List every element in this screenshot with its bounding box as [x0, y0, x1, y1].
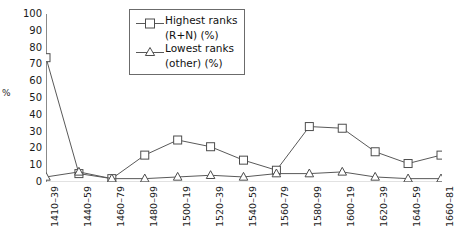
y-tick-label: 60 — [16, 76, 42, 86]
data-point-square-marker — [141, 151, 149, 159]
y-axis-ticks: 1009080706050403020100 — [14, 0, 42, 238]
data-point-square-marker — [371, 148, 379, 156]
legend-sublabel-highest-ranks: (R+N) (%) — [165, 29, 237, 42]
legend-label-lowest-ranks: Lowest ranks — [165, 42, 234, 55]
x-tick-label: 1460–79 — [116, 186, 126, 227]
x-tick-label: 1480–99 — [149, 186, 159, 227]
data-point-square-marker — [305, 123, 313, 131]
x-axis-ticks: 1410–391440–591460–791480–991500–191520–… — [46, 182, 442, 238]
data-point-triangle-marker — [305, 169, 314, 177]
y-tick-label: 90 — [16, 26, 42, 36]
series-lowest-ranks — [46, 167, 442, 182]
legend: Highest ranks (R+N) (%) Lowest ranks (ot… — [129, 9, 245, 75]
y-tick-label: 40 — [16, 110, 42, 120]
legend-label-highest-ranks: Highest ranks — [165, 14, 237, 27]
data-point-triangle-marker — [140, 174, 149, 182]
y-tick-label: 100 — [16, 9, 42, 19]
data-point-triangle-marker — [404, 174, 413, 182]
legend-triangle-marker-icon — [135, 43, 165, 56]
x-tick-label: 1560–79 — [280, 186, 290, 227]
y-axis-label: % — [2, 88, 11, 98]
data-point-triangle-marker — [437, 174, 442, 182]
y-tick-label: 10 — [16, 160, 42, 170]
x-tick-label: 1520–39 — [215, 186, 225, 227]
legend-item-lowest-ranks: Lowest ranks — [135, 42, 237, 56]
data-point-triangle-marker — [206, 171, 215, 179]
data-point-square-marker — [437, 151, 442, 159]
y-tick-label: 70 — [16, 59, 42, 69]
x-tick-label: 1580–99 — [313, 186, 323, 227]
data-point-square-marker — [207, 143, 215, 151]
data-point-square-marker — [338, 124, 346, 132]
x-tick-label: 1540–59 — [248, 186, 258, 227]
y-tick-label: 0 — [16, 177, 42, 187]
legend-sublabel-lowest-ranks: (other) (%) — [165, 57, 237, 70]
data-point-triangle-marker — [338, 167, 347, 175]
data-point-square-marker — [46, 54, 50, 62]
x-tick-label: 1410–39 — [50, 186, 60, 227]
data-point-square-marker — [174, 136, 182, 144]
y-tick-label: 20 — [16, 143, 42, 153]
legend-item-highest-ranks: Highest ranks — [135, 14, 237, 28]
data-point-square-marker — [404, 160, 412, 168]
x-tick-label: 1640–59 — [412, 186, 422, 227]
x-tick-label: 1600–19 — [346, 186, 356, 227]
x-tick-label: 1660–81 — [445, 186, 455, 227]
y-tick-label: 80 — [16, 43, 42, 53]
data-point-square-marker — [240, 156, 248, 164]
legend-square-marker-icon — [135, 15, 165, 28]
x-tick-label: 1500–19 — [182, 186, 192, 227]
y-tick-label: 50 — [16, 93, 42, 103]
x-tick-label: 1440–59 — [83, 186, 93, 227]
y-tick-label: 30 — [16, 127, 42, 137]
data-point-triangle-marker — [173, 172, 182, 180]
x-tick-label: 1620–39 — [379, 186, 389, 227]
